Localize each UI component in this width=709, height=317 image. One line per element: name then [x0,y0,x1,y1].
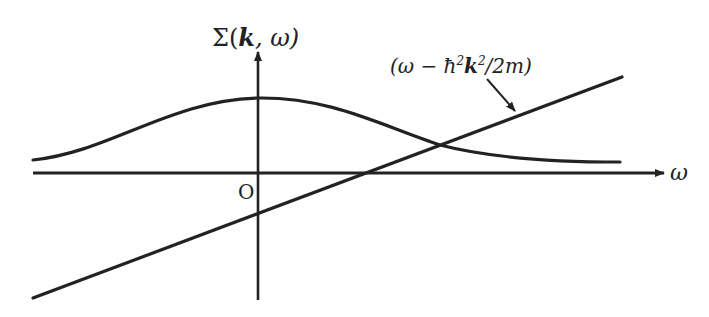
x-axis-label: ω [670,160,688,185]
sigma-curve [33,98,620,162]
origin-label: O [238,180,254,204]
y-axis-label: Σ(k, ω) [212,23,299,52]
self-energy-diagram: Σ(k, ω) (ω − ħ2k2/2m) O ω [0,0,709,317]
free-particle-line [33,77,622,298]
annotation-arrow [487,79,515,111]
line-label: (ω − ħ2k2/2m) [390,54,532,78]
